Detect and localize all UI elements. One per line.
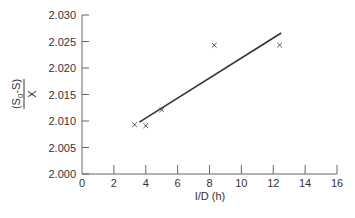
y-axis-label: (S0-S) X [10, 79, 38, 109]
chart: 2.0002.0052.0102.0152.0202.0252.030 0246… [0, 0, 355, 218]
data-point-x-marker [132, 122, 137, 127]
y-axis-label-denominator: X [26, 90, 38, 98]
y-tick-label: 2.005 [48, 142, 76, 154]
plot-area [132, 33, 282, 128]
data-point-x-marker [212, 43, 217, 48]
x-tick-label: 2 [111, 177, 117, 189]
x-tick-label: 14 [299, 177, 311, 189]
data-point-x-marker [143, 123, 148, 128]
y-tick-label: 2.015 [48, 89, 76, 101]
y-tick-label: 2.025 [48, 36, 76, 48]
x-tick-label: 16 [331, 177, 343, 189]
data-point-x-marker [277, 43, 282, 48]
y-tick-label: 2.030 [48, 9, 76, 21]
y-tick-label: 2.000 [48, 168, 76, 180]
y-axis-label-numerator: (S0-S) [10, 79, 25, 109]
y-tick-label: 2.020 [48, 62, 76, 74]
x-axis-label: I/D (h) [195, 190, 226, 202]
y-tick-label: 2.010 [48, 115, 76, 127]
x-tick-label: 12 [267, 177, 279, 189]
x-tick-label: 6 [175, 177, 181, 189]
x-tick-label: 0 [79, 177, 85, 189]
x-axis: 0246810121416 [79, 165, 343, 189]
x-tick-label: 4 [143, 177, 149, 189]
x-tick-label: 10 [235, 177, 247, 189]
x-tick-label: 8 [206, 177, 212, 189]
y-axis: 2.0002.0052.0102.0152.0202.0252.030 [48, 9, 89, 180]
